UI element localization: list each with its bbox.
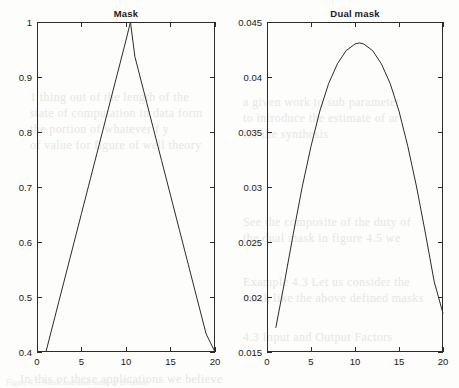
x-axis-tick-label: 15 [165, 356, 176, 367]
data-series-line [276, 43, 443, 328]
plot-panel-mask: Mask0.40.50.60.70.80.9105101520 [37, 22, 215, 352]
y-axis-tick-label: 0.04 [244, 72, 263, 83]
x-axis-tick-label: 20 [210, 356, 221, 367]
plot-panel-dual-mask: Dual mask0.0150.020.0250.030.0350.040.04… [267, 22, 443, 352]
y-axis-tick-label: 0.045 [238, 17, 262, 28]
figure-caption: Figure 4.5: Mask and dual mask of 20 ban… [6, 378, 148, 387]
x-axis-tick-label: 10 [121, 356, 132, 367]
x-axis-tick-label: 20 [438, 356, 449, 367]
x-axis-tick-label: 15 [394, 356, 405, 367]
y-axis-tick-label: 0.02 [244, 292, 263, 303]
x-axis-tick-label: 0 [34, 356, 39, 367]
y-axis-tick-label: 0.8 [19, 127, 32, 138]
figure-container: 1 thing out of the length of thestate of… [0, 0, 459, 388]
y-axis-tick-label: 0.7 [19, 182, 32, 193]
y-axis-tick-label: 0.03 [244, 182, 263, 193]
x-axis-tick-label: 5 [79, 356, 84, 367]
y-axis-tick-label: 0.025 [238, 237, 262, 248]
data-series-line [46, 22, 215, 352]
y-axis-tick-label: 0.035 [238, 127, 262, 138]
x-axis-tick-label: 0 [264, 356, 269, 367]
plot-title: Dual mask [267, 8, 443, 19]
y-axis-tick-label: 0.4 [19, 347, 32, 358]
y-axis-tick-label: 1 [27, 17, 32, 28]
x-axis-tick-label: 5 [308, 356, 313, 367]
y-axis-tick-label: 0.9 [19, 72, 32, 83]
y-axis-tick-label: 0.5 [19, 292, 32, 303]
plot-title: Mask [37, 8, 215, 19]
plot-curve-svg [37, 22, 215, 352]
y-axis-tick-label: 0.6 [19, 237, 32, 248]
x-axis-tick-label: 10 [350, 356, 361, 367]
y-axis-tick-label: 0.015 [238, 347, 262, 358]
plot-curve-svg [267, 22, 443, 352]
